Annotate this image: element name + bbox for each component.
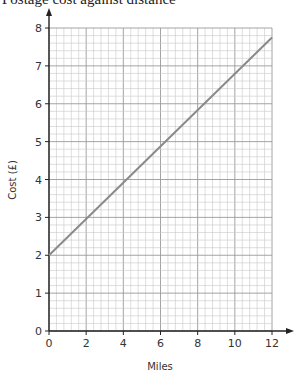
x-tick-label: 8 bbox=[194, 337, 201, 350]
x-tick-label: 6 bbox=[157, 337, 164, 350]
y-tick-label: 7 bbox=[35, 60, 42, 73]
y-axis-label: Cost (£) bbox=[7, 160, 18, 200]
y-tick-label: 8 bbox=[35, 22, 42, 35]
x-tick-label: 12 bbox=[265, 337, 279, 350]
x-tick-label: 4 bbox=[120, 337, 127, 350]
chart-plot: 024681012012345678 Miles Cost (£) bbox=[0, 0, 299, 379]
grid bbox=[49, 28, 272, 331]
y-tick-label: 6 bbox=[35, 98, 42, 111]
y-tick-label: 2 bbox=[35, 249, 42, 262]
x-tick-label: 2 bbox=[83, 337, 90, 350]
y-axis-arrow-icon bbox=[46, 8, 52, 16]
x-tick-label: 10 bbox=[228, 337, 242, 350]
y-tick-label: 3 bbox=[35, 211, 42, 224]
axes bbox=[46, 8, 294, 334]
y-tick-label: 4 bbox=[35, 174, 42, 187]
x-axis-label: Miles bbox=[147, 361, 173, 372]
y-tick-label: 0 bbox=[35, 325, 42, 338]
y-tick-label: 1 bbox=[35, 287, 42, 300]
y-tick-label: 5 bbox=[35, 136, 42, 149]
x-tick-label: 0 bbox=[46, 337, 53, 350]
x-axis-arrow-icon bbox=[286, 328, 294, 334]
